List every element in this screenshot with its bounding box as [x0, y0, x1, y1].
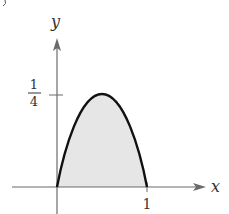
x-tick-label: 1: [143, 196, 152, 212]
x-axis-label: x: [211, 177, 220, 196]
graph: y x 1 4 1: [0, 0, 229, 214]
cropped-glyph-fragment: [3, 0, 6, 6]
y-tick-numerator: 1: [30, 77, 38, 92]
y-tick-denominator: 4: [30, 94, 38, 109]
shaded-region: [57, 94, 147, 187]
y-axis-label: y: [50, 12, 61, 31]
